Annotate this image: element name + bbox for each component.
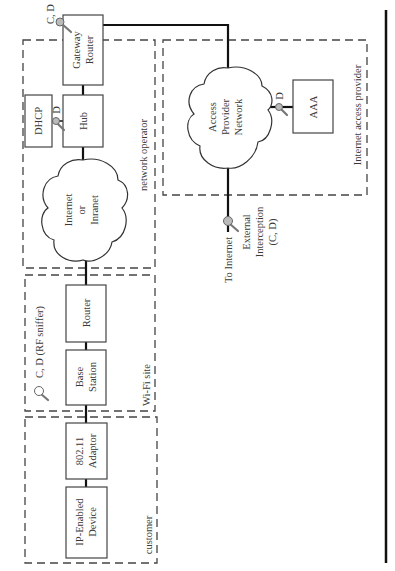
node-aaa: AAA [293, 80, 333, 133]
zone-label-wifi-site: Wi-Fi site [141, 364, 152, 406]
node-access-provider-cloud: Access Provider Network [188, 67, 272, 168]
interception-label-aaa: D [274, 92, 285, 100]
node-gateway-router: Gateway Router [63, 15, 103, 85]
svg-text:Adaptor: Adaptor [87, 433, 98, 468]
svg-text:or: or [76, 205, 87, 214]
network-interception-diagram: network operator Wi-Fi site customer Int… [0, 0, 395, 571]
node-dhcp: DHCP [25, 95, 52, 147]
svg-text:Gateway: Gateway [71, 31, 82, 69]
interception-label-gateway: C, D [45, 4, 56, 24]
wire-gateway-to-access-provider [103, 25, 228, 68]
interception-label-dhcp-hub: D [51, 106, 62, 114]
interception-label-external: Interception [254, 206, 265, 257]
svg-text:Station: Station [87, 361, 98, 392]
svg-text:IP-Enabled: IP-Enabled [74, 498, 85, 546]
zone-label-network-operator: network operator [138, 118, 149, 191]
node-router: Router [66, 285, 106, 342]
zone-label-internet-access-provider: Internet access provider [352, 64, 363, 165]
zone-label-customer: customer [143, 515, 154, 554]
magnifier-icon [53, 118, 65, 131]
magnifier-icon [35, 387, 49, 401]
svg-text:Hub: Hub [78, 112, 89, 130]
magnifier-icon [224, 217, 239, 232]
svg-text:Router: Router [84, 35, 95, 64]
node-hub: Hub [63, 95, 103, 147]
svg-text:Provider: Provider [220, 98, 231, 135]
node-80211-adaptor: 802.11 Adaptor [66, 423, 107, 479]
magnifier-icon [276, 104, 288, 116]
interception-label-wifi: C, D (RF sniffer) [34, 305, 46, 378]
node-internet-cloud: Internet or Inranet [42, 159, 128, 261]
node-ip-enabled-device: IP-Enabled Device [66, 487, 107, 558]
svg-text:AAA: AAA [308, 95, 319, 118]
svg-text:Internet: Internet [63, 194, 74, 227]
svg-text:Base: Base [74, 366, 85, 387]
svg-text:Access: Access [207, 102, 218, 132]
svg-text:Router: Router [81, 298, 92, 327]
svg-text:Device: Device [87, 507, 98, 537]
svg-text:Network: Network [233, 98, 244, 135]
svg-text:DHCP: DHCP [33, 107, 44, 135]
to-internet-label: To Internet [223, 237, 234, 283]
node-base-station: Base Station [66, 350, 106, 405]
interception-label-external: (C, D) [267, 218, 279, 245]
svg-text:Inranet: Inranet [89, 195, 100, 225]
interception-label-external: External [241, 214, 252, 250]
svg-text:802.11: 802.11 [74, 437, 85, 466]
